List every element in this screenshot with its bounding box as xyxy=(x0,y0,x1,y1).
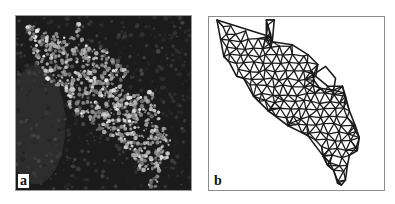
micrograph-speckle xyxy=(165,139,168,142)
micrograph-speckle xyxy=(134,148,137,151)
micrograph-speckle xyxy=(156,34,158,36)
micrograph-speckle xyxy=(121,46,125,50)
micrograph-speckle xyxy=(129,33,133,37)
micrograph-speckle xyxy=(187,95,189,97)
micrograph-speckle xyxy=(156,45,159,48)
micrograph-speckle xyxy=(136,149,141,154)
micrograph-speckle xyxy=(36,49,40,53)
micrograph-speckle xyxy=(151,162,154,165)
mesh-edge xyxy=(284,95,288,101)
micrograph-speckle xyxy=(121,93,123,95)
micrograph-speckle xyxy=(19,74,21,76)
micrograph-speckle xyxy=(87,46,91,50)
micrograph-speckle xyxy=(183,100,185,102)
micrograph-speckle xyxy=(85,63,87,65)
mesh-edge xyxy=(286,71,287,79)
panel-a-micrograph: a xyxy=(15,15,192,191)
micrograph-speckle xyxy=(141,168,146,173)
micrograph-speckle xyxy=(181,22,184,25)
micrograph-speckle xyxy=(58,129,61,132)
micrograph-speckle xyxy=(66,158,69,161)
mesh-edge xyxy=(241,55,248,56)
micrograph-speckle xyxy=(106,90,108,92)
micrograph-speckle xyxy=(45,154,48,157)
mesh-edge xyxy=(253,39,258,48)
mesh-edge xyxy=(283,55,289,62)
micrograph-speckle xyxy=(66,156,69,159)
mesh-edge xyxy=(297,96,304,100)
micrograph-speckle xyxy=(36,40,38,42)
micrograph-speckle xyxy=(110,72,113,75)
micrograph-speckle xyxy=(80,70,82,72)
micrograph-speckle xyxy=(147,168,149,170)
micrograph-speckle xyxy=(19,120,23,124)
micrograph-speckle xyxy=(71,81,73,83)
micrograph-speckle xyxy=(97,115,101,119)
micrograph-speckle xyxy=(149,181,153,185)
micrograph-speckle xyxy=(125,181,129,185)
micrograph-speckle xyxy=(28,80,31,83)
micrograph-speckle xyxy=(63,162,65,164)
micrograph-speckle xyxy=(101,122,105,126)
mesh-edge xyxy=(336,108,343,117)
micrograph-speckle xyxy=(160,161,162,163)
micrograph-speckle xyxy=(181,64,185,68)
micrograph-speckle xyxy=(137,100,139,102)
mesh-edge xyxy=(335,141,337,148)
mesh-edge xyxy=(293,109,299,117)
micrograph-speckle xyxy=(100,134,102,136)
micrograph-speckle xyxy=(152,49,155,52)
micrograph-speckle xyxy=(154,36,156,38)
micrograph-speckle xyxy=(66,66,68,68)
mesh-edge xyxy=(292,81,299,87)
mesh-diagram xyxy=(209,17,384,190)
micrograph-speckle xyxy=(170,159,174,163)
micrograph-speckle xyxy=(45,111,50,116)
micrograph-speckle xyxy=(171,44,175,48)
micrograph-speckle xyxy=(142,56,146,60)
micrograph-speckle xyxy=(118,56,121,59)
micrograph-speckle xyxy=(163,132,165,134)
mesh-edge xyxy=(281,62,289,63)
micrograph-speckle xyxy=(147,138,150,141)
micrograph-speckle xyxy=(157,90,161,94)
micrograph-speckle xyxy=(149,114,153,118)
micrograph-speckle xyxy=(71,76,73,78)
micrograph-speckle xyxy=(93,48,95,50)
micrograph-speckle xyxy=(140,32,145,37)
micrograph-speckle xyxy=(73,176,77,180)
micrograph-speckle xyxy=(103,115,107,119)
micrograph-speckle xyxy=(81,122,85,126)
micrograph-speckle xyxy=(30,46,32,48)
mesh-edge xyxy=(229,54,230,61)
micrograph-speckle xyxy=(68,128,71,131)
micrograph-speckle xyxy=(101,82,105,86)
mesh-edge xyxy=(288,87,292,95)
micrograph-speckle xyxy=(125,113,128,116)
mesh-edge xyxy=(263,49,265,55)
micrograph-speckle xyxy=(112,134,115,137)
mesh-edge xyxy=(284,101,291,109)
micrograph-speckle xyxy=(155,174,159,178)
micrograph-speckle xyxy=(149,184,153,188)
micrograph-speckle xyxy=(113,106,115,108)
micrograph-speckle xyxy=(156,141,160,145)
micrograph-speckle xyxy=(19,55,23,59)
micrograph-speckle xyxy=(81,96,83,98)
micrograph-speckle xyxy=(64,148,69,153)
micrograph-speckle xyxy=(61,126,65,130)
micrograph-speckle xyxy=(110,129,112,131)
micrograph-speckle xyxy=(52,79,55,82)
micrograph-speckle xyxy=(149,104,152,107)
micrograph-speckle xyxy=(57,66,61,70)
mesh-edge xyxy=(334,117,336,124)
micrograph-speckle xyxy=(21,157,25,161)
micrograph-speckle xyxy=(162,100,166,104)
micrograph-speckle xyxy=(158,117,161,120)
micrograph-speckle xyxy=(147,75,151,79)
micrograph-speckle xyxy=(29,109,31,111)
micrograph-speckle xyxy=(91,85,94,88)
mesh-edge xyxy=(320,93,325,104)
mesh-edge xyxy=(289,54,292,62)
micrograph-speckle xyxy=(40,180,43,183)
